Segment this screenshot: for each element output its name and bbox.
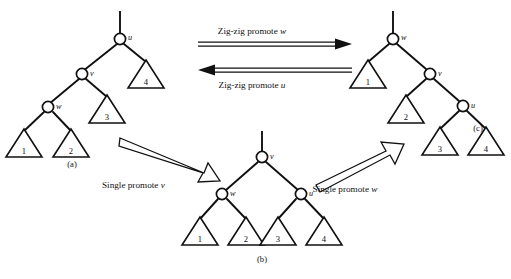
panel-a-node-u-label: u (128, 33, 132, 42)
panel-c-edge-v-u (434, 79, 459, 101)
arrow-zigzig-w-caption-var: w (280, 26, 287, 36)
panel-a: 4 3 1 2 u v w (a) (6, 11, 164, 169)
panel-b-subtree-4-label: 4 (322, 234, 327, 244)
arrow-zigzig-u-caption-var: u (281, 80, 286, 90)
arrow-zigzig-w-caption-prefix: Zig-zig promote (218, 26, 280, 36)
arrow-zigzig-u-head (198, 65, 215, 76)
panel-a-node-v (76, 68, 87, 79)
panel-c: 1 2 3 4 w v u (c) (350, 11, 504, 155)
arrow-zigzig-promote-w (198, 39, 352, 50)
panel-b-subtree-3-label: 3 (276, 234, 280, 244)
panel-c-node-w (387, 33, 398, 44)
panel-c-caption: (c) (473, 123, 483, 133)
panel-a-subtree-4-label: 4 (144, 77, 149, 87)
splay-rotation-diagram: 4 3 1 2 u v w (a) 1 (0, 0, 511, 279)
panel-b-node-w-label: w (230, 189, 236, 198)
panel-a-edge-u-v (83, 44, 117, 71)
panel-a-caption: (a) (67, 159, 77, 169)
panel-a-edge-w-t1 (24, 112, 44, 131)
panel-b-edge-v-w (226, 162, 258, 190)
panel-c-edge-v-t2 (406, 79, 426, 97)
panel-c-node-v (424, 68, 435, 79)
arrow-single-v-caption: Single promote v (102, 180, 166, 190)
panel-a-edge-v-w (49, 79, 79, 104)
panel-c-node-u-label: u (471, 101, 475, 110)
panel-b-edge-u-t3 (278, 199, 296, 219)
panel-b-edge-w-t1 (200, 199, 218, 219)
arrow-single-w-caption-var: w (371, 184, 378, 194)
panel-b-node-v-label: v (270, 152, 274, 161)
panel-b-edge-v-u (266, 162, 298, 190)
panel-c-edge-w-v (397, 44, 426, 69)
panel-c-node-u (457, 100, 468, 111)
panel-b-node-u (295, 188, 306, 199)
panel-c-edge-w-t1 (368, 44, 389, 62)
arrow-single-v-shape (119, 138, 220, 182)
panel-a-node-u (114, 33, 125, 44)
panel-c-edge-u-t3 (440, 111, 459, 129)
arrow-single-v-caption-var: v (161, 180, 166, 190)
panel-a-edge-u-t4 (124, 44, 146, 62)
figure-canvas: 4 3 1 2 u v w (a) 1 (0, 0, 511, 279)
panel-b-edge-w-t2 (227, 199, 246, 219)
arrow-single-promote-v (119, 138, 220, 182)
panel-a-subtree-3-label: 3 (105, 112, 109, 122)
arrow-zigzig-w-caption: Zig-zig promote w (218, 26, 287, 36)
panel-a-node-v-label: v (90, 69, 94, 78)
panel-a-edge-w-t2 (53, 112, 71, 131)
arrow-single-w-caption-prefix: Single promote (313, 184, 372, 194)
arrow-single-w-caption: Single promote w (313, 184, 379, 194)
panel-a-edge-v-t3 (86, 79, 107, 97)
panel-b-subtree-2-label: 2 (244, 234, 248, 244)
arrow-zigzig-w-head (335, 39, 352, 50)
panel-b-subtree-1-label: 1 (198, 234, 202, 244)
panel-a-subtree-1-label: 1 (22, 146, 26, 156)
arrow-zigzig-u-caption-prefix: Zig-zig promote (219, 80, 281, 90)
panel-c-subtree-1-label: 1 (366, 77, 370, 87)
panel-c-subtree-2-label: 2 (404, 112, 408, 122)
panel-c-node-v-label: v (438, 69, 442, 78)
arrow-zigzig-promote-u (198, 65, 352, 76)
panel-c-subtree-3-label: 3 (438, 144, 442, 154)
panel-b-caption: (b) (257, 254, 267, 264)
panel-b: 1 2 3 4 v w u (b) (182, 131, 342, 264)
panel-a-subtree-2-label: 2 (69, 146, 73, 156)
arrow-single-v-caption-prefix: Single promote (102, 180, 161, 190)
panel-a-node-w-label: w (56, 102, 62, 111)
panel-b-node-v (256, 151, 267, 162)
panel-c-node-w-label: w (401, 33, 407, 42)
panel-b-node-w (216, 188, 227, 199)
panel-a-node-w (42, 101, 53, 112)
panel-c-subtree-4-label: 4 (484, 144, 489, 154)
panel-b-edge-u-t4 (305, 199, 324, 219)
arrow-zigzig-u-caption: Zig-zig promote u (219, 80, 286, 90)
